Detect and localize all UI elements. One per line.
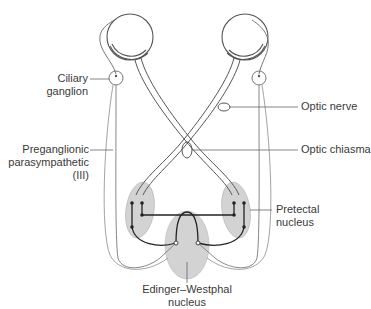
- preganglionic-label: Preganglionic parasympathetic (III): [0, 143, 89, 182]
- left-outer-loop: [104, 85, 168, 269]
- right-outer-loop: [207, 85, 271, 269]
- label-line: parasympathetic: [0, 156, 89, 169]
- optic-chiasma-label: Optic chiasma: [301, 143, 371, 156]
- label-line: Pretectal: [276, 203, 319, 216]
- label-line: Ciliary: [20, 72, 88, 85]
- optic-nerve-label: Optic nerve: [301, 100, 357, 113]
- optic-pathway: [135, 58, 240, 195]
- right-ganglion-synapse: [258, 75, 260, 77]
- label-line: ganglion: [20, 85, 88, 98]
- pretectal-nucleus-label: Pretectal nucleus: [276, 203, 319, 229]
- label-line: Optic chiasma: [301, 143, 371, 156]
- label-line: Edinger–Westphal: [137, 283, 237, 296]
- label-line: Optic nerve: [301, 100, 357, 113]
- left-ganglion-synapse: [115, 75, 117, 77]
- label-line: Preganglionic: [0, 143, 89, 156]
- ciliary-ganglion-label: Ciliary ganglion: [20, 72, 88, 98]
- left-pretectal-nucleus: [122, 180, 158, 239]
- optic-nerve-marker: [218, 103, 230, 111]
- label-line: nucleus: [276, 216, 319, 229]
- label-line: nucleus: [137, 296, 237, 309]
- right-eye: [222, 14, 268, 60]
- label-line: (III): [0, 169, 89, 182]
- edinger-westphal-label: Edinger–Westphal nucleus: [137, 283, 237, 309]
